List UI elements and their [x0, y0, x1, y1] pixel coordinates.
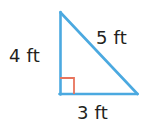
triangle-drawing [0, 0, 146, 132]
label-hypotenuse: 5 ft [96, 29, 127, 47]
right-angle-icon [61, 78, 74, 93]
right-triangle-figure: 4 ft 5 ft 3 ft [0, 0, 146, 132]
label-leg-b: 3 ft [77, 104, 108, 122]
triangle-hypotenuse [61, 13, 138, 95]
label-leg-a: 4 ft [9, 47, 40, 65]
